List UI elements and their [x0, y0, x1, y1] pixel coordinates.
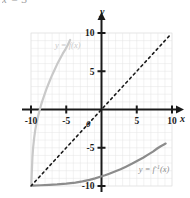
- x-tick-label: -10: [25, 116, 38, 126]
- finv-curve-annotation: y = f-1(x): [138, 164, 170, 174]
- origin-label: 0: [86, 119, 91, 129]
- y-axis-label: y: [99, 6, 105, 17]
- y-tick-label: -10: [82, 181, 95, 191]
- inverse-function-graph-figure: x = 3 -10-5510105-5-10 x y 0 y = f(x) y …: [0, 0, 190, 198]
- finv-suffix: (x): [160, 164, 170, 174]
- f-curve-annotation: y = f(x): [54, 40, 81, 50]
- finv-prefix: y = f: [138, 164, 157, 174]
- x-axis-label: x: [179, 113, 185, 124]
- coordinate-plane-svg: -10-5510105-5-10 x y 0 y = f(x) y = f-1(…: [0, 0, 190, 198]
- y-tick-label: 5: [90, 67, 95, 77]
- y-tick-label: -5: [87, 143, 95, 153]
- x-tick-label: 5: [134, 116, 139, 126]
- x-tick-label: -5: [62, 116, 70, 126]
- cut-off-equation-text: x = 3: [2, 0, 28, 4]
- series-path: [31, 40, 70, 185]
- y-tick-label: 10: [85, 28, 95, 38]
- x-tick-label: 10: [167, 116, 177, 126]
